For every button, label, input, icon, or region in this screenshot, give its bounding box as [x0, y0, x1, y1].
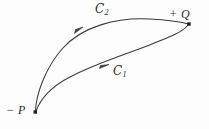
curve-label-c1-letter: C — [113, 64, 122, 78]
point-label-q: + Q — [169, 8, 190, 20]
curve-label-c1-subscript: 1 — [122, 70, 126, 79]
curve-label-c2-subscript: 2 — [104, 8, 108, 17]
curve-c2-path — [36, 19, 189, 111]
point-marker-p — [34, 110, 37, 113]
curve-diagram: + Q − P C2 C1 — [0, 0, 209, 129]
arrowhead-c1-icon — [100, 65, 110, 69]
point-marker-q — [187, 22, 190, 25]
curve-label-c2: C2 — [95, 3, 108, 17]
point-label-p: − P — [6, 104, 26, 116]
curve-label-c2-letter: C — [95, 2, 104, 16]
curve-label-c1: C1 — [113, 65, 126, 79]
